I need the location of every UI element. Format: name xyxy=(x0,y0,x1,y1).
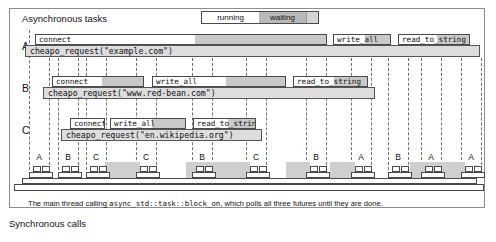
poll-label-c: C xyxy=(246,152,266,162)
poll-label-b: B xyxy=(192,152,212,162)
time-guide xyxy=(441,58,442,175)
future-bar-b: cheapo_request("www.red-bean.com") xyxy=(43,87,375,99)
poll-label-b: B xyxy=(306,152,326,162)
time-guide xyxy=(49,58,50,175)
figure-caption: The main thread calling async_std::task:… xyxy=(28,199,383,208)
caption-before: The main thread calling xyxy=(28,199,109,208)
future-bar-a: cheapo_request("example.com") xyxy=(25,45,480,57)
legend-running: running xyxy=(202,12,259,23)
legend-tail xyxy=(306,12,318,23)
op-bar-connect: connect xyxy=(35,34,327,45)
op-bar-write-all: write_all xyxy=(110,118,186,129)
poll-label-c: C xyxy=(136,152,156,162)
poll-label-a: A xyxy=(461,152,481,162)
time-guide xyxy=(408,58,409,175)
time-guide xyxy=(481,58,482,175)
poll-label-a: A xyxy=(421,152,441,162)
poll-label-c: C xyxy=(86,152,106,162)
poll-label-b: B xyxy=(388,152,408,162)
poll-label-b: B xyxy=(58,152,78,162)
time-guide xyxy=(371,58,372,175)
caption-code: async_std::task::block_on xyxy=(109,199,220,208)
legend: running waiting xyxy=(201,11,319,24)
op-bar-read-to-string: read_to_string xyxy=(293,76,368,87)
main-thread-base-outer xyxy=(14,184,484,191)
task-label-b: B xyxy=(22,82,29,94)
legend-waiting: waiting xyxy=(259,12,306,23)
op-bar-read-to-string: read_to_string xyxy=(193,118,256,129)
op-bar-write-all: write_all xyxy=(333,34,391,45)
op-bar-read-to-string: read_to_string xyxy=(398,34,470,45)
op-bar-write-all: write_all xyxy=(152,76,286,87)
poll-label-a: A xyxy=(351,152,371,162)
poll-label-a: A xyxy=(29,152,49,162)
op-bar-connect: connect xyxy=(52,76,144,87)
page-title-sync: Synchronous calls xyxy=(9,218,86,229)
page-title-async: Asynchronous tasks xyxy=(22,13,107,24)
future-bar-c: cheapo_request("en.wikipedia.org") xyxy=(61,129,262,141)
task-label-c: C xyxy=(22,124,30,136)
caption-after: , which polls all three futures until th… xyxy=(220,199,383,208)
diagram-root: Asynchronous tasks running waiting Achea… xyxy=(0,0,496,242)
op-bar-connect: connect xyxy=(70,118,105,129)
